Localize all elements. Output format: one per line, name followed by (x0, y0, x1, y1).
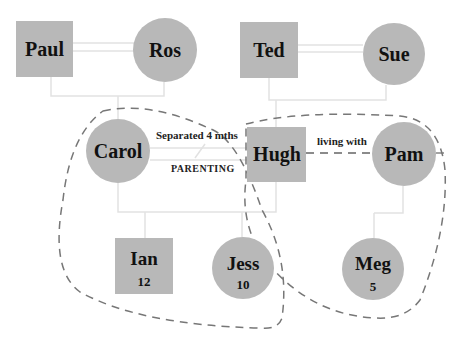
person-jess[interactable]: Jess 10 (212, 237, 274, 299)
paul-ros-descent-bracket (51, 77, 164, 96)
person-ted[interactable]: Ted (240, 22, 298, 78)
person-name: Hugh (253, 143, 301, 166)
person-meg[interactable]: Meg 5 (342, 238, 404, 300)
living-with-label: living with (317, 135, 367, 147)
person-name: Ros (149, 39, 181, 61)
person-age: 5 (370, 279, 377, 294)
person-paul[interactable]: Paul (16, 21, 73, 77)
separation-slash (195, 144, 205, 158)
person-hugh[interactable]: Hugh (247, 127, 306, 182)
person-age: 10 (237, 277, 250, 292)
person-name: Ted (253, 39, 285, 61)
person-ian[interactable]: Ian 12 (115, 238, 173, 294)
ted-sue-descent-bracket (269, 78, 386, 100)
person-sue[interactable]: Sue (363, 23, 425, 85)
person-ros[interactable]: Ros (133, 18, 197, 82)
person-pam[interactable]: Pam (372, 122, 436, 186)
separated-label: Separated 4 mths (156, 129, 239, 141)
person-name: Carol (94, 140, 143, 162)
person-name: Sue (378, 43, 409, 65)
person-name: Ian (130, 248, 158, 269)
hugh-pam-children-bracket (374, 186, 403, 213)
person-name: Meg (355, 253, 391, 274)
person-name: Pam (385, 143, 424, 165)
person-name: Paul (25, 38, 64, 60)
carol-hugh-children-bracket (118, 182, 276, 212)
genogram-canvas: Paul Ros Ted Sue Carol Hugh Pam Ian 12 J… (0, 0, 461, 343)
person-carol[interactable]: Carol (86, 119, 150, 183)
person-age: 12 (138, 274, 151, 289)
parenting-label: PARENTING (171, 163, 235, 174)
person-name: Jess (227, 253, 260, 274)
